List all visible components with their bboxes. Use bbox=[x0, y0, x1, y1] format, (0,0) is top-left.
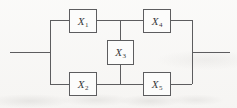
component-box-x3: X3 bbox=[107, 40, 134, 65]
wire-left-bus bbox=[50, 20, 51, 84]
bridge-network-figure: X1 X4 X3 X2 X5 bbox=[0, 0, 237, 108]
wire-top-rail-right bbox=[171, 20, 192, 21]
component-box-x5: X5 bbox=[143, 72, 171, 96]
wire-input-lead bbox=[10, 52, 50, 53]
wire-bottom-rail-left bbox=[50, 84, 69, 85]
wire-bottom-rail-mid bbox=[97, 84, 143, 85]
component-box-x4: X4 bbox=[143, 9, 171, 33]
wire-output-lead bbox=[192, 52, 230, 53]
component-label-x1: X1 bbox=[78, 16, 89, 27]
component-label-x3: X3 bbox=[115, 47, 126, 58]
component-box-x2: X2 bbox=[69, 72, 97, 96]
wire-top-rail-left bbox=[50, 20, 69, 21]
wire-bridge-upper bbox=[120, 20, 121, 40]
component-label-x4: X4 bbox=[152, 16, 163, 27]
wire-bottom-rail-right bbox=[171, 84, 192, 85]
wire-bridge-lower bbox=[120, 65, 121, 84]
wire-right-bus bbox=[192, 20, 193, 84]
component-label-x5: X5 bbox=[152, 79, 163, 90]
component-label-x2: X2 bbox=[78, 79, 89, 90]
component-box-x1: X1 bbox=[69, 9, 97, 33]
